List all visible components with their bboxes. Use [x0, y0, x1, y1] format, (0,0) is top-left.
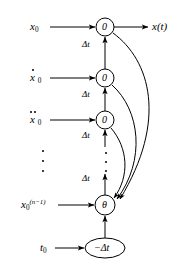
- input-label-t0: t0: [40, 242, 47, 255]
- input-x0-ddot-base: x: [30, 113, 35, 125]
- input-label-x0-n-minus-1: x0(n−1): [21, 199, 45, 212]
- edge-label-delta-t-2: Δt: [82, 90, 90, 99]
- derivative-dot-icon: [32, 69, 34, 71]
- input-x0-subscript: 0: [35, 26, 39, 34]
- input-label-x0-ddot: x 0: [30, 114, 41, 127]
- feedback-edge-n1-theta: [112, 85, 136, 199]
- input-label-x0: x0: [30, 21, 39, 34]
- input-label-x0-dot: x 0: [30, 72, 41, 85]
- derivative-dot-icon: [30, 111, 32, 113]
- node-integrator-0-label: 0: [102, 22, 107, 32]
- edge-label-delta-t-4: Δt: [82, 174, 90, 183]
- input-x0-n1-superscript: (n−1): [30, 198, 46, 205]
- feedback-edge-n2-theta: [111, 128, 125, 198]
- input-x0-ddot-subscript: 0: [38, 119, 42, 127]
- block-diagram: 0 0 0 θ −Δt x0 x 0 x 0 x0(n−1) t0 x(t) Δ…: [0, 0, 188, 270]
- edge-label-delta-t-3: Δt: [82, 131, 90, 140]
- node-minus-delta-t-label: −Δt: [94, 243, 109, 253]
- edge-label-delta-t-1: Δt: [82, 40, 90, 49]
- input-x0-dot-base: x: [30, 71, 35, 83]
- input-x0-dot-subscript: 0: [38, 77, 42, 85]
- diagram-canvas: [0, 0, 188, 270]
- output-label-xt: x(t): [152, 21, 167, 32]
- node-theta-label: θ: [102, 200, 107, 210]
- node-integrator-1-label: 0: [102, 73, 107, 83]
- derivative-dot-icon: [34, 111, 36, 113]
- chain-vertical-ellipsis-icon: [104, 152, 107, 172]
- input-t0-subscript: 0: [43, 247, 47, 255]
- node-integrator-2-label: 0: [102, 115, 107, 125]
- left-vertical-ellipsis-icon: [41, 150, 44, 172]
